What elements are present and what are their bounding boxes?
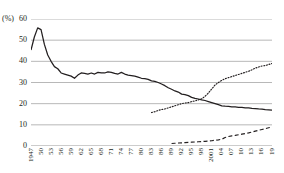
x-axis-tick-label: 77 — [128, 148, 135, 155]
y-axis-tick-label: 40 — [5, 57, 27, 65]
x-axis-tick-label: 83 — [148, 148, 155, 155]
y-axis-tick-label: 50 — [5, 36, 27, 44]
y-axis-tick-label: 10 — [5, 121, 27, 129]
x-axis-tick-label: 16 — [258, 148, 265, 155]
x-axis-tick-label: 80 — [138, 148, 145, 155]
y-axis-tick-label: 0 — [5, 142, 27, 150]
x-axis-tick-label: 65 — [88, 148, 95, 155]
x-axis-tick-label: 50 — [38, 148, 45, 155]
x-axis-tick-label: 10 — [238, 148, 245, 155]
x-axis-tick-label: 62 — [78, 148, 85, 155]
x-axis-tick-label: 98 — [198, 148, 205, 155]
x-axis-tick-label: 86 — [158, 148, 165, 155]
series-line-dashed — [172, 127, 272, 144]
x-axis-tick-label: 56 — [58, 148, 65, 155]
x-axis-tick-label: 89 — [168, 148, 175, 155]
data-series-layer — [31, 19, 272, 146]
chart-container: (%) 6050403020100 1947505356596265687174… — [0, 0, 284, 173]
x-axis-tick-label: 53 — [48, 148, 55, 155]
x-axis-tick-label: 07 — [228, 148, 235, 155]
x-axis-tick-label: 13 — [248, 148, 255, 155]
x-axis-tick-label: 59 — [68, 148, 75, 155]
x-axis-tick-labels: 1947505356596265687174778083868992959820… — [31, 148, 272, 173]
x-axis-tick-label: 2001 — [208, 148, 215, 162]
x-axis-tick-label: 1947 — [28, 148, 35, 162]
x-axis-tick-label: 74 — [118, 148, 125, 155]
x-axis-tick-label: 68 — [98, 148, 105, 155]
x-axis-tick-label: 71 — [108, 148, 115, 155]
x-axis-tick-label: 95 — [188, 148, 195, 155]
y-axis-tick-label: 30 — [5, 79, 27, 87]
series-line-solid — [31, 28, 272, 110]
y-axis-tick-label: 60 — [5, 15, 27, 23]
x-axis-tick-label: 19 — [269, 148, 276, 155]
y-axis-tick-label: 20 — [5, 100, 27, 108]
plot-area — [31, 19, 272, 146]
x-axis-tick-label: 92 — [178, 148, 185, 155]
x-axis-tick-label: 04 — [218, 148, 225, 155]
